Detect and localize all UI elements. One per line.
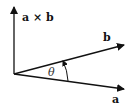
label-b: b (103, 31, 111, 44)
vector-b (14, 45, 124, 74)
cross-product-diagram: a × b b a θ (0, 0, 131, 106)
label-a: a (112, 93, 119, 106)
label-theta: θ (48, 66, 55, 79)
label-cross-product: a × b (22, 11, 54, 24)
angle-arc (63, 61, 68, 81)
vector-a (14, 74, 124, 89)
